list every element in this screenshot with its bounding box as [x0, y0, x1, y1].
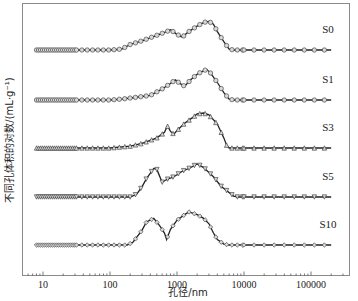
data-marker — [117, 243, 121, 247]
data-marker — [176, 80, 180, 84]
data-marker — [101, 98, 105, 102]
data-marker — [96, 48, 100, 52]
data-marker — [224, 143, 228, 147]
data-marker — [262, 98, 266, 102]
data-marker — [208, 225, 212, 229]
series-s10 — [34, 210, 331, 247]
data-marker — [101, 243, 105, 247]
data-marker — [80, 98, 84, 102]
data-marker — [74, 98, 78, 102]
data-marker — [203, 68, 207, 72]
x-tick-label: 10 — [38, 279, 48, 290]
x-tick-label: 100 — [103, 279, 118, 290]
series-s1 — [34, 68, 331, 102]
series-s3 — [34, 111, 331, 150]
x-axis-title: 孔径/nm — [168, 286, 207, 298]
data-marker — [74, 48, 78, 52]
data-marker — [252, 98, 256, 102]
data-marker — [282, 98, 286, 102]
data-marker — [123, 97, 127, 101]
data-marker — [90, 243, 94, 247]
x-axis-ticks — [28, 272, 343, 276]
data-marker — [149, 93, 153, 97]
data-marker — [117, 97, 121, 101]
data-marker — [165, 83, 169, 87]
data-marker — [224, 242, 228, 246]
data-marker — [85, 243, 89, 247]
data-marker — [312, 48, 316, 52]
data-marker — [106, 243, 110, 247]
data-marker — [182, 34, 186, 38]
data-marker — [224, 43, 228, 47]
data-marker — [128, 96, 132, 100]
series-s0 — [34, 20, 331, 52]
data-marker — [149, 217, 153, 221]
data-marker — [322, 98, 326, 102]
data-marker — [123, 243, 127, 247]
data-marker — [106, 98, 110, 102]
data-marker — [272, 243, 276, 247]
data-marker — [80, 48, 84, 52]
data-marker — [312, 243, 316, 247]
data-marker — [90, 48, 94, 52]
data-marker — [187, 29, 191, 33]
x-tick-label: 10000 — [232, 279, 257, 290]
data-marker — [219, 130, 223, 134]
data-marker — [312, 98, 316, 102]
data-marker — [219, 86, 223, 90]
data-marker — [272, 48, 276, 52]
data-marker — [101, 48, 105, 52]
data-marker — [85, 48, 89, 52]
data-marker — [112, 47, 116, 51]
series-labels: S0S1S3S5S10 — [319, 23, 337, 230]
data-marker — [123, 45, 127, 49]
data-marker — [262, 48, 266, 52]
data-marker — [203, 20, 207, 24]
data-marker — [214, 27, 218, 31]
data-marker — [90, 98, 94, 102]
data-marker — [198, 71, 202, 75]
data-marker — [160, 31, 164, 35]
data-marker — [198, 22, 202, 26]
data-marker — [214, 78, 218, 82]
data-marker — [112, 97, 116, 101]
data-marker — [235, 243, 239, 247]
data-marker — [176, 33, 180, 37]
data-marker — [80, 243, 84, 247]
data-marker — [192, 26, 196, 30]
series-curves — [34, 20, 331, 247]
data-marker — [160, 180, 164, 184]
data-marker — [106, 48, 110, 52]
data-marker — [171, 29, 175, 33]
plot-frame — [23, 4, 350, 276]
data-marker — [292, 243, 296, 247]
data-marker — [302, 48, 306, 52]
data-marker — [155, 90, 159, 94]
data-marker — [139, 39, 143, 43]
data-marker — [133, 41, 137, 45]
data-marker — [165, 124, 169, 128]
data-marker — [128, 241, 132, 245]
data-marker — [139, 94, 143, 98]
data-marker — [272, 98, 276, 102]
series-label-s5: S5 — [322, 170, 334, 182]
data-marker — [192, 212, 196, 216]
data-marker — [165, 29, 169, 33]
data-marker — [252, 48, 256, 52]
data-marker — [144, 94, 148, 98]
data-marker — [171, 79, 175, 83]
data-marker — [160, 87, 164, 91]
data-marker — [302, 243, 306, 247]
data-marker — [117, 47, 121, 51]
data-marker — [292, 48, 296, 52]
data-marker — [235, 48, 239, 52]
series-label-s1: S1 — [322, 73, 334, 85]
data-marker — [219, 35, 223, 39]
series-label-s10: S10 — [319, 218, 337, 230]
data-marker — [149, 35, 153, 39]
data-marker — [322, 243, 326, 247]
data-marker — [242, 98, 246, 102]
data-marker — [128, 42, 132, 46]
curve-line — [37, 113, 332, 148]
data-marker — [133, 95, 137, 99]
